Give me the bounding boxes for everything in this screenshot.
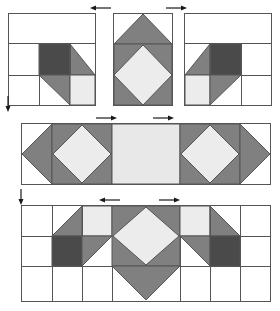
seam-arrow-edge-upper [4,96,12,112]
seam-arrow-mid-right [152,114,174,122]
seam-arrow-top-left [90,4,112,12]
quilt-diagram [0,0,280,311]
corner-unit-right [184,13,272,106]
corner-unit-left [8,13,96,106]
assembled-block [21,205,271,302]
seam-arrow-mid-left [95,114,117,122]
seam-arrow-bottom-right [158,196,180,204]
side-unit-center [113,13,173,106]
seam-arrow-bottom-left [99,196,121,204]
center-strip [21,123,271,185]
seam-arrow-edge-lower [17,189,25,205]
seam-arrow-top-right [165,4,187,12]
